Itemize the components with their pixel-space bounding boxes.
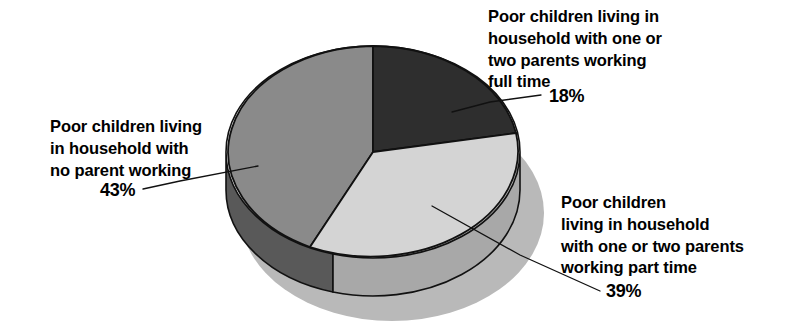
slice-label-full-time-line-4: full time (488, 71, 740, 93)
slice-label-no-parent: Poor children living in household with n… (50, 116, 280, 181)
slice-label-full-time-line-1: Poor children living in (488, 6, 740, 28)
slice-value-full-time: 18% (549, 86, 584, 107)
slice-value-part-time: 39% (606, 281, 641, 302)
slice-label-part-time: Poor children living in household with o… (561, 192, 787, 279)
slice-label-part-time-line-1: Poor children (561, 192, 787, 214)
pie-chart: Poor children living in household with o… (0, 0, 794, 330)
slice-label-part-time-line-3: with one or two parents (561, 236, 787, 258)
slice-label-part-time-line-4: working part time (561, 257, 787, 279)
slice-label-no-parent-line-2: in household with (50, 138, 280, 160)
slice-label-full-time-line-2: household with one or (488, 28, 740, 50)
slice-label-full-time: Poor children living in household with o… (488, 6, 740, 93)
slice-label-full-time-line-3: two parents working (488, 50, 740, 72)
slice-label-part-time-line-2: living in household (561, 214, 787, 236)
slice-label-no-parent-line-3: no parent working (50, 160, 280, 182)
slice-label-no-parent-line-1: Poor children living (50, 116, 280, 138)
slice-value-no-parent: 43% (100, 180, 135, 201)
